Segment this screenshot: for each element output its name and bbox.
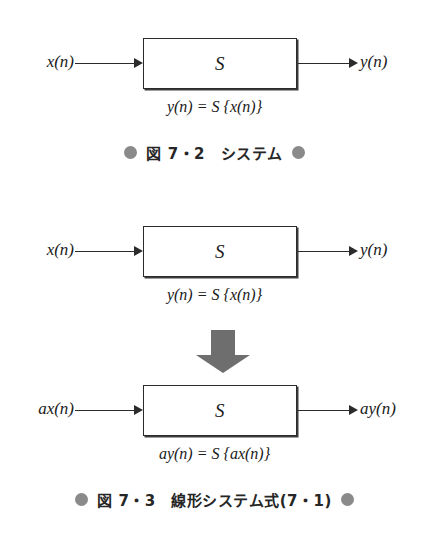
system-box: S — [143, 38, 297, 89]
caption-text: 図 7・3 線形システム式(7・1) — [97, 489, 332, 510]
figure-7-3: x(n) S y(n) y(n) = S {x(n)} ax(n) S ay(n… — [0, 226, 429, 296]
input-arrow-head-icon — [134, 405, 143, 415]
figure-caption-7-2: 図 7・2 システム — [0, 142, 429, 163]
formula-y-equals-s-x: y(n) = S {x(n)} — [0, 98, 429, 116]
caption-bullet-left-icon — [124, 146, 137, 159]
input-arrow-line — [75, 63, 138, 64]
figure-caption-7-3: 図 7・3 線形システム式(7・1) — [0, 489, 429, 510]
output-label-y-n: y(n) — [360, 240, 387, 260]
input-arrow-head-icon — [134, 58, 143, 68]
system-box-label: S — [144, 241, 296, 263]
system-box: S — [143, 226, 297, 277]
system-box-label: S — [144, 400, 296, 422]
input-arrow-head-icon — [134, 246, 143, 256]
system-box-label: S — [144, 53, 296, 75]
caption-text: 図 7・2 システム — [146, 142, 282, 163]
caption-bullet-right-icon — [292, 146, 305, 159]
output-label-y-n: y(n) — [360, 52, 387, 72]
output-label-ay-n: ay(n) — [360, 399, 396, 419]
downward-transition-arrow-icon — [196, 330, 250, 372]
input-arrow-line — [75, 251, 138, 252]
output-arrow-head-icon — [349, 58, 358, 68]
caption-bullet-right-icon — [341, 493, 354, 506]
figure-7-2: x(n) S y(n) y(n) = S {x(n)} 図 7・2 システム — [0, 38, 429, 108]
input-label-ax-n: ax(n) — [38, 399, 74, 419]
output-arrow-line — [298, 251, 353, 252]
output-arrow-line — [298, 63, 353, 64]
output-arrow-head-icon — [349, 246, 358, 256]
input-label-x-n: x(n) — [47, 240, 74, 260]
arrow-head — [196, 355, 250, 373]
formula-y-equals-s-x: y(n) = S {x(n)} — [0, 286, 429, 304]
formula-ay-equals-s-ax: ay(n) = S {ax(n)} — [0, 445, 429, 463]
arrow-shaft — [211, 330, 235, 356]
output-arrow-head-icon — [349, 405, 358, 415]
input-arrow-line — [75, 410, 138, 411]
output-arrow-line — [298, 410, 353, 411]
caption-bullet-left-icon — [75, 493, 88, 506]
input-label-x-n: x(n) — [47, 52, 74, 72]
system-box: S — [143, 385, 297, 436]
